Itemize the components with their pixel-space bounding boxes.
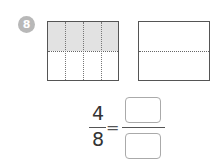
answer-denominator-box[interactable] xyxy=(125,133,161,159)
vertical-divider xyxy=(65,22,66,80)
left-rectangle-figure xyxy=(47,21,119,81)
vertical-divider xyxy=(83,22,84,80)
horizontal-divider xyxy=(139,51,209,52)
answer-fraction-bar xyxy=(122,127,165,128)
fraction-denominator: 8 xyxy=(88,128,108,150)
problem-number-badge: 8 xyxy=(18,16,35,33)
fraction-numerator: 4 xyxy=(88,102,108,124)
vertical-divider xyxy=(101,22,102,80)
right-rectangle-figure xyxy=(138,21,210,81)
equals-sign: = xyxy=(106,118,119,137)
answer-numerator-box[interactable] xyxy=(125,97,161,123)
